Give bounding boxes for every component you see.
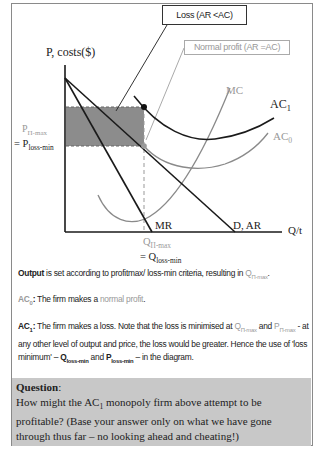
question-body: How might the AC1 monopoly firm above at… — [16, 395, 307, 444]
ac0-curve — [144, 133, 268, 168]
ac1-price-point — [141, 104, 147, 110]
ac1-paragraph: AC1: The firm makes a loss. Note that th… — [18, 320, 310, 369]
q-profit-max-label: QΠ-max — [143, 236, 171, 250]
q-loss-min-label: = Qloss-min — [140, 251, 181, 265]
p-profit-max-label: PΠ-max — [22, 123, 47, 137]
ac1-label: AC1 — [270, 97, 291, 113]
ac0-label: AC0 — [273, 130, 292, 145]
question-heading: Question: — [16, 380, 307, 395]
normal-profit-callout: Normal profit (AR =AC) — [184, 40, 290, 55]
loss-callout: Loss (AR <AC) — [162, 5, 247, 25]
loss-pointer — [116, 25, 167, 111]
ac1-curve — [134, 96, 274, 139]
ac0-paragraph: AC0: The firm makes a normal profit. — [18, 293, 310, 311]
y-axis-label: P, costs($) — [46, 45, 95, 60]
mr-label: MR — [155, 219, 172, 231]
mc-label: MC — [226, 84, 243, 96]
loss-area — [66, 107, 144, 146]
p-loss-min-label: = Ploss-min — [14, 138, 54, 152]
output-paragraph: Output is set according to profitmax/ lo… — [18, 267, 310, 285]
question-box: Question: How might the AC1 monopoly fir… — [12, 378, 311, 446]
demand-label: D, AR — [233, 219, 261, 231]
x-axis-label: Q/t — [288, 224, 302, 236]
ac0-price-point — [141, 143, 147, 149]
demand-curve — [65, 78, 235, 232]
